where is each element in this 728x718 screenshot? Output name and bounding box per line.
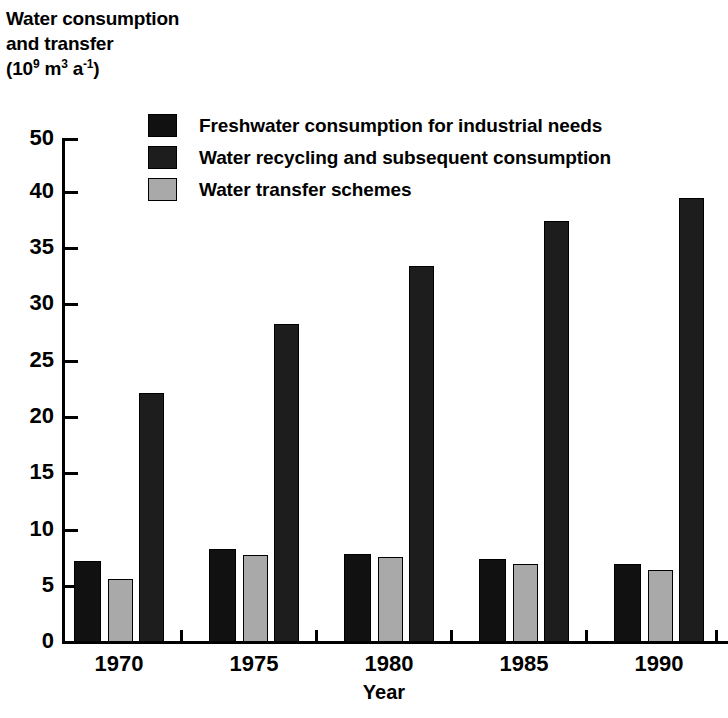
y-tick-10 — [65, 529, 78, 532]
plot-area: 50 40 35 30 25 20 15 10 5 0 — [0, 0, 728, 718]
bar-1975-freshwater — [209, 549, 236, 642]
y-ticklabel-15: 15 — [8, 461, 54, 483]
x-ticklabel-1980: 1980 — [344, 652, 434, 676]
bar-1975-transfer — [243, 555, 268, 642]
bar-1985-recycling — [544, 221, 569, 642]
legend-item-freshwater: Freshwater consumption for industrial ne… — [148, 110, 611, 141]
bar-1970-transfer — [108, 579, 133, 642]
y-ticklabel-10: 10 — [8, 518, 54, 540]
x-ticklabel-1970: 1970 — [74, 652, 164, 676]
x-tick-4 — [585, 630, 588, 641]
x-tick-2 — [315, 630, 318, 641]
x-ticklabel-1975: 1975 — [209, 652, 299, 676]
y-tick-15 — [65, 472, 78, 475]
bar-1985-transfer — [513, 564, 538, 642]
y-ticklabel-0: 0 — [8, 630, 54, 652]
legend-label-recycling: Water recycling and subsequent consumpti… — [199, 147, 611, 169]
y-ticklabel-30: 30 — [8, 292, 54, 314]
y-tick-20 — [65, 416, 78, 419]
legend-label-freshwater: Freshwater consumption for industrial ne… — [199, 115, 602, 137]
x-tick-1 — [180, 630, 183, 641]
legend-swatch-icon-freshwater — [148, 114, 177, 137]
bar-1970-recycling — [139, 393, 164, 642]
y-ticklabel-5: 5 — [8, 574, 54, 596]
y-ticklabel-25: 25 — [8, 349, 54, 371]
x-ticklabel-1985: 1985 — [479, 652, 569, 676]
bar-1975-recycling — [274, 324, 299, 642]
bar-1980-recycling — [409, 266, 434, 642]
bar-1990-recycling — [679, 198, 704, 642]
y-ticklabel-40: 40 — [8, 180, 54, 202]
legend-item-transfer: Water transfer schemes — [148, 174, 611, 205]
y-tick-25 — [65, 360, 78, 363]
x-axis-title: Year — [0, 681, 728, 704]
y-ticklabel-20: 20 — [8, 405, 54, 427]
bar-1970-freshwater — [74, 561, 101, 642]
y-tick-40 — [65, 191, 78, 194]
legend-item-recycling: Water recycling and subsequent consumpti… — [148, 142, 611, 173]
y-tick-30 — [65, 303, 78, 306]
chart-figure: Water consumption and transfer (109 m3 a… — [0, 0, 728, 718]
x-ticklabel-1990: 1990 — [614, 652, 704, 676]
y-tick-35 — [65, 247, 78, 250]
bar-1990-transfer — [648, 570, 673, 642]
bar-1990-freshwater — [614, 564, 641, 642]
x-tick-5 — [715, 630, 718, 641]
legend-swatch-icon-transfer — [148, 178, 177, 201]
y-ticklabel-50: 50 — [8, 127, 54, 149]
legend-label-transfer: Water transfer schemes — [199, 179, 412, 201]
y-tick-50 — [65, 138, 78, 141]
y-axis-line — [62, 138, 65, 644]
x-tick-3 — [450, 630, 453, 641]
bar-1985-freshwater — [479, 559, 506, 642]
bar-1980-freshwater — [344, 554, 371, 642]
legend-swatch-icon-recycling — [148, 146, 177, 169]
chart-legend: Freshwater consumption for industrial ne… — [148, 110, 611, 206]
bar-1980-transfer — [378, 557, 403, 642]
y-ticklabel-35: 35 — [8, 236, 54, 258]
